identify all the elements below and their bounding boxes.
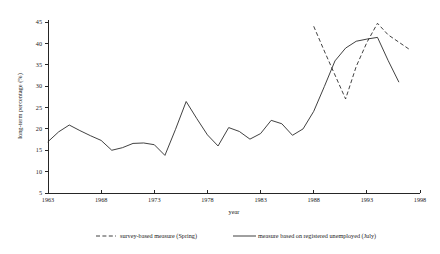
x-tick-label: 1978: [201, 196, 213, 203]
y-tick-label: 40: [36, 40, 42, 47]
y-tick-label: 45: [36, 18, 42, 25]
x-axis-ticks: 19631968197319781983198819931998: [42, 190, 426, 203]
x-axis-title: year: [229, 208, 241, 215]
x-tick-label: 1973: [148, 196, 160, 203]
x-tick-label: 1993: [361, 196, 373, 203]
chart-legend: survey-based measure (Spring) measure ba…: [96, 232, 376, 240]
y-tick-label: 30: [36, 82, 42, 89]
line-chart: 51015202530354045 1963196819731978198319…: [0, 0, 440, 254]
series-layer: [48, 23, 409, 155]
legend-label-registered: measure based on registered unemployed (…: [258, 232, 376, 240]
y-tick-label: 10: [36, 168, 42, 175]
y-tick-label: 35: [36, 61, 42, 68]
x-tick-label: 1983: [254, 196, 266, 203]
chart-figure: 51015202530354045 1963196819731978198319…: [0, 0, 440, 254]
y-axis-ticks: 51015202530354045: [36, 18, 48, 196]
legend-label-survey: survey-based measure (Spring): [120, 232, 197, 240]
x-tick-label: 1968: [95, 196, 107, 203]
series-line-registered: [48, 37, 399, 155]
y-tick-label: 20: [36, 125, 42, 132]
x-tick-label: 1963: [42, 196, 54, 203]
y-axis-title: long-term percentage (%): [16, 73, 24, 139]
x-tick-label: 1988: [308, 196, 320, 203]
y-tick-label: 15: [36, 146, 42, 153]
x-tick-label: 1998: [414, 196, 426, 203]
series-line-survey: [314, 23, 410, 99]
y-tick-label: 25: [36, 104, 42, 111]
